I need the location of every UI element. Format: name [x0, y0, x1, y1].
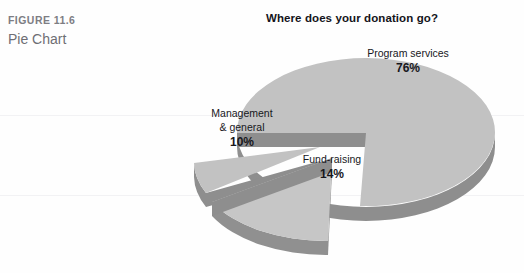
figure-title: Pie Chart	[8, 30, 168, 49]
figure-number: FIGURE 11.6	[8, 14, 168, 27]
chart-title: Where does your donation go?	[180, 12, 524, 24]
figure-caption: FIGURE 11.6 Pie Chart	[8, 14, 168, 49]
slice-cut-wall	[237, 133, 366, 147]
pie-chart-figure: Where does your donation go?	[180, 0, 524, 273]
figure-page: FIGURE 11.6 Pie Chart Where does your do…	[0, 0, 524, 273]
pie-chart-graphic	[180, 30, 524, 273]
